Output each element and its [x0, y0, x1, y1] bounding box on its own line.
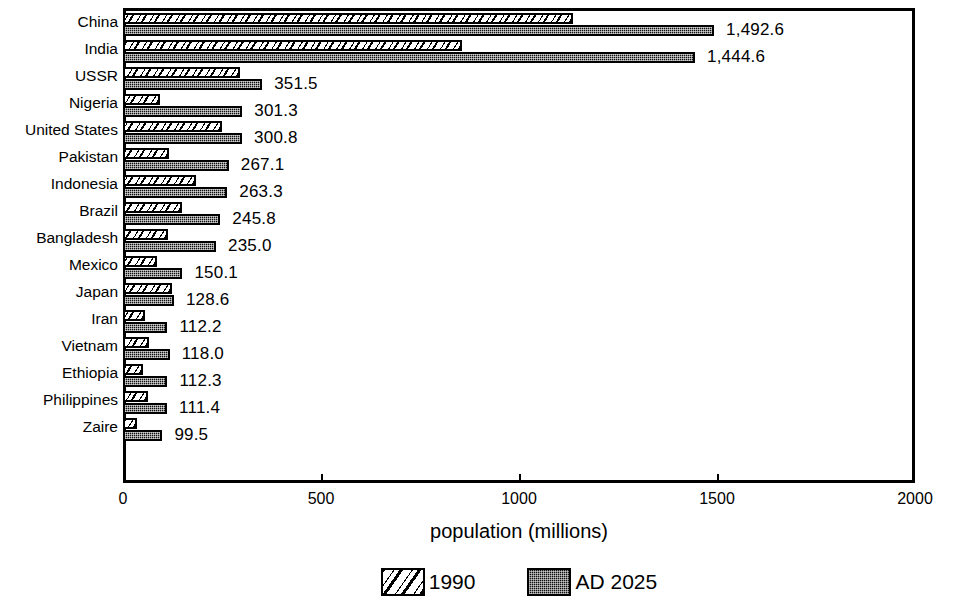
bar-1990	[123, 40, 462, 51]
category-label: Ethiopia	[0, 364, 118, 382]
bar-row: 111.4	[123, 389, 915, 416]
bar-row: 267.1	[123, 146, 915, 173]
bar-value-label: 150.1	[194, 263, 238, 283]
category-label: China	[0, 13, 118, 31]
bar-value-label: 1,492.6	[726, 20, 784, 40]
category-label: India	[0, 40, 118, 58]
bar-1990	[123, 391, 148, 402]
bar-1990	[123, 364, 143, 375]
legend-label-ad-2025: AD 2025	[575, 569, 657, 595]
bar-value-label: 128.6	[186, 290, 230, 310]
category-label: Zaire	[0, 418, 118, 436]
category-axis-labels: ChinaIndiaUSSRNigeriaUnited StatesPakist…	[0, 11, 118, 480]
bar-row: 1,492.6	[123, 11, 915, 38]
legend-entry-ad-2025: AD 2025	[527, 568, 657, 596]
axis-tick-label: 2000	[897, 489, 933, 508]
bar-value-label: 235.0	[228, 236, 272, 256]
bar-value-label: 112.3	[179, 371, 221, 391]
legend-entry-1990: 1990	[381, 568, 476, 596]
bar-ad-2025	[123, 133, 242, 144]
bar-1990	[123, 13, 573, 24]
value-axis: 0500100015002000	[123, 483, 915, 523]
bar-row: 301.3	[123, 92, 915, 119]
bar-ad-2025	[123, 403, 167, 414]
bar-value-label: 1,444.6	[707, 47, 765, 67]
bar-1990	[123, 310, 145, 321]
bar-rows: 1,492.61,444.6351.5301.3300.8267.1263.32…	[123, 11, 915, 480]
bar-row: 300.8	[123, 119, 915, 146]
bar-ad-2025	[123, 25, 714, 36]
bar-row: 150.1	[123, 254, 915, 281]
bar-ad-2025	[123, 349, 170, 360]
bar-ad-2025	[123, 376, 167, 387]
chart-legend: 1990 AD 2025	[123, 562, 915, 602]
hatch-swatch-icon	[381, 568, 425, 596]
bar-value-label: 245.8	[232, 209, 276, 229]
bar-1990	[123, 175, 196, 186]
category-label: Philippines	[0, 391, 118, 409]
category-label: Brazil	[0, 202, 118, 220]
bar-value-label: 263.3	[239, 182, 283, 202]
category-label: Mexico	[0, 256, 118, 274]
bar-row: 351.5	[123, 65, 915, 92]
bar-ad-2025	[123, 241, 216, 252]
bar-row: 112.2	[123, 308, 915, 335]
category-label: Pakistan	[0, 148, 118, 166]
bar-ad-2025	[123, 214, 220, 225]
bar-1990	[123, 418, 137, 429]
bar-row: 99.5	[123, 416, 915, 443]
axis-tick	[717, 474, 719, 483]
axis-tick-label: 500	[308, 489, 335, 508]
legend-label-1990: 1990	[429, 569, 476, 595]
bar-ad-2025	[123, 322, 167, 333]
bar-value-label: 112.2	[179, 317, 221, 337]
bar-ad-2025	[123, 268, 182, 279]
bar-value-label: 301.3	[254, 101, 298, 121]
category-label: Indonesia	[0, 175, 118, 193]
bar-ad-2025	[123, 106, 242, 117]
bar-row: 112.3	[123, 362, 915, 389]
bar-1990	[123, 202, 182, 213]
bar-ad-2025	[123, 160, 229, 171]
bar-1990	[123, 337, 149, 348]
bar-value-label: 99.5	[174, 425, 208, 445]
population-bar-chart: ChinaIndiaUSSRNigeriaUnited StatesPakist…	[0, 0, 954, 615]
x-axis-title: population (millions)	[123, 518, 915, 544]
bar-row: 235.0	[123, 227, 915, 254]
category-label: Vietnam	[0, 337, 118, 355]
category-label: USSR	[0, 67, 118, 85]
category-label: Nigeria	[0, 94, 118, 112]
bar-value-label: 267.1	[241, 155, 285, 175]
bar-1990	[123, 94, 160, 105]
bar-ad-2025	[123, 430, 162, 441]
bar-1990	[123, 148, 169, 159]
axis-tick	[519, 474, 521, 483]
category-label: Japan	[0, 283, 118, 301]
bar-value-label: 118.0	[182, 344, 224, 364]
bar-1990	[123, 283, 172, 294]
bar-1990	[123, 256, 157, 267]
bar-1990	[123, 67, 240, 78]
dotfill-swatch-icon	[527, 568, 571, 596]
axis-tick	[321, 474, 323, 483]
bar-ad-2025	[123, 79, 262, 90]
bar-value-label: 111.4	[179, 398, 220, 418]
category-label: Iran	[0, 310, 118, 328]
axis-tick-label: 1000	[501, 489, 537, 508]
bar-row: 263.3	[123, 173, 915, 200]
bar-ad-2025	[123, 187, 227, 198]
bar-row: 128.6	[123, 281, 915, 308]
bar-ad-2025	[123, 295, 174, 306]
axis-tick-label: 0	[119, 489, 128, 508]
bar-value-label: 300.8	[254, 128, 298, 148]
bar-1990	[123, 229, 168, 240]
bar-row: 1,444.6	[123, 38, 915, 65]
axis-tick-label: 1500	[699, 489, 735, 508]
category-label: United States	[0, 121, 118, 139]
bar-ad-2025	[123, 52, 695, 63]
bar-value-label: 351.5	[274, 74, 318, 94]
bar-1990	[123, 121, 222, 132]
bar-row: 118.0	[123, 335, 915, 362]
category-label: Bangladesh	[0, 229, 118, 247]
bar-row: 245.8	[123, 200, 915, 227]
